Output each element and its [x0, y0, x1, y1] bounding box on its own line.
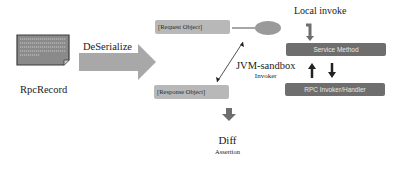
response-object-box: [Response Object]: [154, 85, 229, 99]
diff-title: Diff: [218, 134, 236, 146]
to-diff-arrow-icon: [222, 108, 236, 121]
diff-label: Diff Assertion: [215, 135, 240, 157]
jvm-sandbox-title: JVM-sandbox: [236, 60, 296, 71]
local-invoke-arrow-icon: [306, 25, 314, 41]
jvm-sandbox-label: JVM-sandbox Invoker: [236, 60, 296, 82]
document-icon: [17, 35, 69, 65]
local-invoke-label: Local invoke: [294, 5, 346, 16]
rpc-record-label: RpcRecord: [20, 84, 67, 95]
deserialize-label: DeSerialize: [83, 41, 132, 52]
service-method-box: Service Method: [286, 43, 386, 56]
down-arrow-icon: [328, 63, 336, 78]
rpc-invoker-handler-box: RPC Invoker/Handler: [285, 83, 385, 96]
jvm-sandbox-subtitle: Invoker: [236, 71, 296, 82]
request-object-box: [Request Object]: [155, 20, 230, 34]
sandbox-ellipse-icon: [255, 21, 281, 35]
diff-subtitle: Assertion: [215, 146, 240, 157]
up-arrow-icon: [308, 63, 316, 78]
